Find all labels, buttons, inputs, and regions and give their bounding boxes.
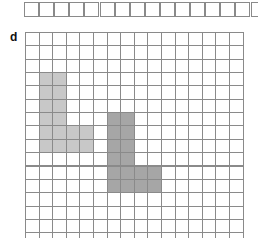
grid-cell — [52, 32, 67, 46]
grid-cell — [134, 45, 149, 59]
grid-cell — [52, 125, 67, 139]
grid-cell — [147, 139, 162, 153]
grid-cell — [188, 206, 203, 220]
grid-cell — [188, 72, 203, 86]
grid-cell — [229, 192, 244, 206]
grid-cell — [161, 139, 176, 153]
grid-cell — [120, 85, 135, 99]
grid-cell — [205, 2, 220, 17]
grid-cell — [120, 125, 135, 139]
grid-cell — [161, 166, 176, 180]
grid-cell — [79, 232, 94, 238]
grid-cell — [52, 166, 67, 180]
grid-cell — [161, 32, 176, 46]
grid-cell — [202, 206, 217, 220]
grid-cell — [93, 232, 108, 238]
grid-cell — [39, 232, 54, 238]
grid-cell — [188, 45, 203, 59]
grid-cell — [161, 232, 176, 238]
grid-cell — [93, 125, 108, 139]
grid-cell — [147, 152, 162, 166]
grid-cell — [93, 99, 108, 113]
grid-cell — [52, 85, 67, 99]
grid-cell — [39, 206, 54, 220]
grid-cell — [229, 72, 244, 86]
grid-cell — [175, 219, 190, 233]
grid-cell — [25, 166, 40, 180]
grid-cell — [215, 139, 230, 153]
grid-cell — [52, 152, 67, 166]
grid-cell — [93, 152, 108, 166]
grid-cell — [188, 99, 203, 113]
grid-cell — [134, 232, 149, 238]
grid-cell — [235, 2, 250, 17]
grid-cell — [161, 206, 176, 220]
grid-cell — [107, 112, 122, 126]
grid-cell — [147, 192, 162, 206]
grid-cell — [229, 179, 244, 193]
grid-cell — [54, 2, 69, 17]
grid-cell — [93, 179, 108, 193]
grid-cell — [175, 32, 190, 46]
grid-cell — [79, 219, 94, 233]
grid-cell — [39, 166, 54, 180]
grid-cell — [229, 152, 244, 166]
grid-cell — [161, 85, 176, 99]
grid-cell — [215, 219, 230, 233]
grid-cell — [93, 32, 108, 46]
grid-cell — [175, 166, 190, 180]
grid-cell — [66, 72, 81, 86]
grid-cell — [52, 192, 67, 206]
grid-cell — [79, 192, 94, 206]
grid-cell — [147, 166, 162, 180]
grid-cell — [175, 59, 190, 73]
grid-cell — [175, 125, 190, 139]
grid-cell — [107, 139, 122, 153]
grid-cell — [160, 2, 175, 17]
grid-cell — [134, 72, 149, 86]
grid-cell — [147, 125, 162, 139]
grid-cell — [147, 59, 162, 73]
grid-cell — [39, 99, 54, 113]
grid-cell — [107, 232, 122, 238]
grid-cell — [215, 206, 230, 220]
grid-cell — [79, 152, 94, 166]
grid-cell — [93, 206, 108, 220]
grid-cell — [134, 125, 149, 139]
grid-cell — [215, 166, 230, 180]
grid-cell — [66, 179, 81, 193]
grid-cell — [188, 139, 203, 153]
grid-cell — [100, 2, 115, 17]
grid-cell — [215, 125, 230, 139]
grid-cell — [175, 179, 190, 193]
grid-cell — [39, 2, 54, 17]
grid-cell — [52, 179, 67, 193]
grid-cell — [120, 139, 135, 153]
grid-cell — [215, 179, 230, 193]
grid-cell — [120, 32, 135, 46]
grid-cell — [120, 192, 135, 206]
grid-cell — [120, 72, 135, 86]
grid-cell — [120, 219, 135, 233]
grid-cell — [229, 139, 244, 153]
grid-cell — [215, 152, 230, 166]
grid-cell — [107, 99, 122, 113]
grid-cell — [215, 59, 230, 73]
grid-cell — [161, 99, 176, 113]
grid-cell — [215, 85, 230, 99]
grid-cell — [161, 45, 176, 59]
grid-cell — [25, 206, 40, 220]
grid-cell — [145, 2, 160, 17]
grid-cell — [52, 59, 67, 73]
grid-cell — [130, 2, 145, 17]
grid-cell — [202, 152, 217, 166]
grid-cell — [25, 125, 40, 139]
grid-cell — [175, 232, 190, 238]
grid-cell — [134, 179, 149, 193]
grid-cell — [25, 139, 40, 153]
grid-cell — [229, 99, 244, 113]
grid-cell — [188, 85, 203, 99]
grid-cell — [39, 219, 54, 233]
grid-cell — [161, 219, 176, 233]
grid-cell — [147, 206, 162, 220]
